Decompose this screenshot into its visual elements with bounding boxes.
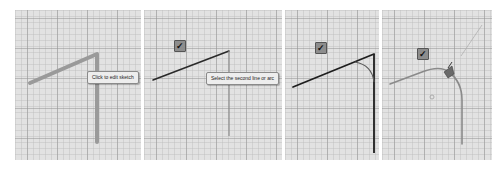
- sketch-geometry[interactable]: [15, 10, 141, 160]
- sketch-canvas-step-2[interactable]: ✓ Select the second line or arc: [144, 10, 282, 160]
- tooltip-select-second-line: Select the second line or arc: [206, 72, 279, 85]
- confirm-checkbox[interactable]: ✓: [417, 48, 429, 60]
- confirm-checkbox[interactable]: ✓: [174, 40, 186, 52]
- tooltip-click-to-edit-sketch: Click to edit sketch: [87, 71, 139, 84]
- sketch-canvas-step-4[interactable]: ✓: [382, 10, 492, 160]
- sketch-canvas-step-1[interactable]: Click to edit sketch: [15, 10, 141, 160]
- highlighted-sketch-lines: [30, 54, 97, 142]
- checkmark-icon: ✓: [419, 49, 427, 59]
- first-line: [293, 54, 374, 87]
- confirm-checkbox[interactable]: ✓: [315, 42, 327, 54]
- checkmark-icon: ✓: [317, 43, 325, 53]
- arc-center-marker: [430, 95, 434, 99]
- checkmark-icon: ✓: [176, 41, 184, 51]
- sketch-geometry[interactable]: [144, 10, 282, 160]
- fillet-preview-arc: [355, 62, 374, 82]
- construction-line: [461, 25, 482, 56]
- sketch-geometry[interactable]: [285, 10, 379, 160]
- sketch-geometry[interactable]: [382, 10, 492, 160]
- sketch-canvas-step-3[interactable]: ✓: [285, 10, 379, 160]
- filleted-sketch-curve: [390, 69, 462, 145]
